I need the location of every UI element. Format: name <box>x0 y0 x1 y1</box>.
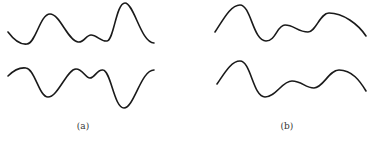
waveform-diagram <box>0 0 373 142</box>
curve-a-bottom <box>8 68 154 108</box>
curve-a-top <box>8 3 154 44</box>
panel-a-caption: (a) <box>77 121 89 131</box>
curve-b-bottom <box>217 61 366 97</box>
curve-b-top <box>215 5 366 41</box>
panel-b-caption: (b) <box>281 121 294 131</box>
